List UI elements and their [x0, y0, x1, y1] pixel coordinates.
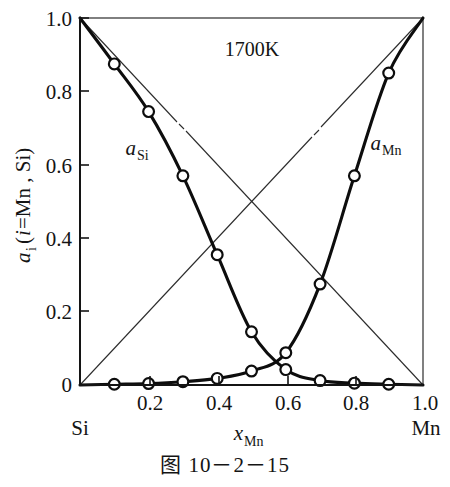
- curve-label-a-si-main: a: [126, 136, 137, 160]
- data-point-marker: [109, 58, 120, 69]
- ideal-line-si-upper: [80, 18, 177, 122]
- data-point-marker: [349, 170, 360, 181]
- data-point-marker: [349, 378, 360, 389]
- x-axis-title-main: x: [233, 421, 244, 445]
- data-point-marker: [212, 373, 223, 384]
- x-tick-label-0.6: 0.6: [275, 391, 301, 415]
- figure-caption: 图 10－2－15: [0, 448, 450, 478]
- y-tick-label-1.0: 1.0: [46, 7, 72, 31]
- ideal-line-si-dash: [179, 124, 184, 129]
- curve-label-a-si: a Si: [126, 136, 149, 163]
- data-point-marker: [246, 366, 257, 377]
- x-tick-label-0.8: 0.8: [343, 391, 369, 415]
- activity-composition-chart: 1.0 0.8 0.6 0.4 0.2 0 0.2 0.4 0.6 0.8 1.…: [0, 0, 450, 487]
- y-axis-title-paren: (: [11, 237, 35, 244]
- temperature-annotation: 1700K: [225, 38, 280, 60]
- data-point-marker: [280, 364, 291, 375]
- y-tick-label-0.4: 0.4: [46, 227, 73, 251]
- curve-label-a-mn-sub: Mn: [382, 143, 401, 158]
- curve-label-a-mn: a Mn: [371, 131, 402, 158]
- data-point-marker: [143, 378, 154, 389]
- x-axis-title: x Mn: [233, 421, 264, 449]
- data-point-marker: [280, 347, 291, 358]
- x-axis-title-sub: Mn: [244, 434, 263, 449]
- y-tick-label-0.2: 0.2: [46, 300, 72, 324]
- y-axis-title-rest: =Mn , Si): [11, 148, 35, 229]
- curve-label-a-si-sub: Si: [137, 148, 149, 163]
- ideal-line-mn-dash: [314, 130, 319, 135]
- y-axis-title-i: i: [11, 230, 35, 236]
- y-axis-title: a i ( i =Mn , Si): [11, 148, 39, 263]
- figure-container: 1.0 0.8 0.6 0.4 0.2 0 0.2 0.4 0.6 0.8 1.…: [0, 0, 450, 487]
- x-axis-right-endpoint-mn: Mn: [411, 416, 441, 440]
- y-tick-label-0.6: 0.6: [46, 154, 72, 178]
- ideal-line-mn-upper: [321, 18, 423, 127]
- y-axis-ticks: [80, 18, 89, 311]
- data-point-marker: [383, 68, 394, 79]
- x-tick-label-0.4: 0.4: [206, 391, 233, 415]
- markers-a-si: [109, 58, 394, 389]
- ideal-line-mn-lower: [80, 137, 312, 385]
- data-point-marker: [246, 326, 257, 337]
- curve-label-a-mn-main: a: [371, 131, 382, 155]
- x-tick-label-1.0: 1.0: [412, 391, 438, 415]
- y-axis-title-main: a: [11, 253, 35, 264]
- data-point-marker: [315, 279, 326, 290]
- y-tick-label-0.8: 0.8: [46, 80, 72, 104]
- y-tick-label-0: 0: [62, 373, 73, 397]
- data-point-marker: [212, 249, 223, 260]
- x-tick-label-0.2: 0.2: [137, 391, 163, 415]
- y-axis-title-sub: i: [24, 247, 39, 251]
- data-point-marker: [143, 106, 154, 117]
- x-axis-left-endpoint-si: Si: [71, 416, 89, 440]
- data-point-marker: [178, 170, 189, 181]
